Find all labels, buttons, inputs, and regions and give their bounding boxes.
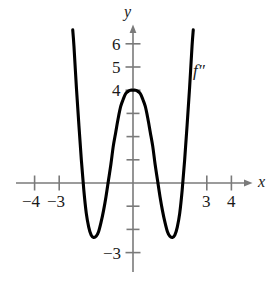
y-tick-label-4: 4 <box>112 82 121 99</box>
x-tick-label-4: 4 <box>227 193 236 210</box>
x-tick-label--4: −4 <box>22 193 40 210</box>
plot-svg <box>0 0 279 282</box>
y-tick-label-5: 5 <box>112 59 121 76</box>
y-tick-label--3: −3 <box>103 245 121 262</box>
curve-label: f″ <box>193 62 205 79</box>
x-tick-label--3: −3 <box>47 193 65 210</box>
x-tick-label-3: 3 <box>202 193 211 210</box>
y-axis-label: y <box>124 4 131 20</box>
graph-figure: −4 −3 3 4 6 5 4 −3 x y f″ <box>0 0 279 282</box>
x-axis-label: x <box>258 174 265 190</box>
y-tick-label-6: 6 <box>112 36 121 53</box>
